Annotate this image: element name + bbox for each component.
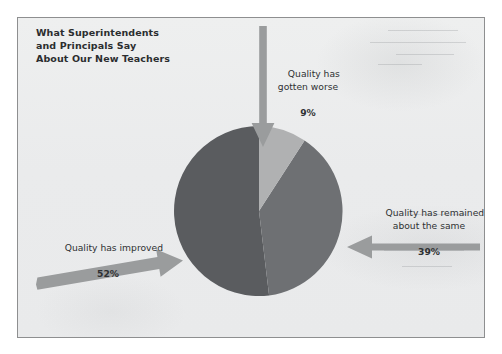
figure-panel: What Superintendents and Principals Say … <box>17 17 485 338</box>
title-line-3: About Our New Teachers <box>36 53 170 64</box>
callout-same-percent: 39% <box>355 246 485 258</box>
pie-slice-improved <box>174 126 269 296</box>
scan-streak <box>378 64 422 65</box>
callout-improved: Quality has improved 52% <box>38 230 178 305</box>
callout-improved-text: Quality has improved <box>65 242 163 253</box>
callout-worse: Quality has gotten worse 9% <box>256 56 360 144</box>
title-line-2: and Principals Say <box>36 40 136 51</box>
scan-streak <box>370 42 466 43</box>
callout-worse-percent: 9% <box>256 107 360 119</box>
title-line-1: What Superintendents <box>36 27 159 38</box>
callout-worse-text: Quality has gotten worse <box>278 68 340 91</box>
page-title: What Superintendents and Principals Say … <box>36 26 170 66</box>
callout-improved-percent: 52% <box>38 268 178 280</box>
callout-same-text: Quality has remained about the same <box>386 207 485 230</box>
callout-same: Quality has remained about the same 39% <box>355 195 485 283</box>
scan-streak <box>396 54 454 55</box>
scan-streak <box>388 30 458 31</box>
pie-chart <box>173 125 345 297</box>
